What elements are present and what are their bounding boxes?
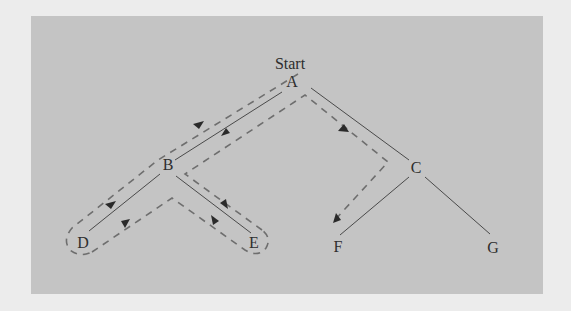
node-f: F bbox=[334, 239, 343, 255]
node-d: D bbox=[77, 235, 89, 251]
node-g: G bbox=[487, 240, 499, 256]
arrow-b-to-e bbox=[211, 215, 219, 225]
arrow-a-to-c bbox=[338, 124, 349, 132]
arrow-b-to-d bbox=[105, 201, 116, 209]
edge-c-g bbox=[425, 177, 490, 234]
start-label: Start bbox=[275, 56, 305, 72]
tree-diagram bbox=[0, 0, 571, 311]
edge-c-f bbox=[340, 177, 409, 235]
node-c: C bbox=[411, 160, 422, 176]
node-a: A bbox=[286, 74, 298, 90]
arrow-e-to-b bbox=[220, 199, 228, 209]
arrow-b-to-a bbox=[221, 128, 230, 136]
traversal-path bbox=[66, 74, 388, 255]
traversal-arrows bbox=[105, 121, 349, 228]
arrow-a-to-b bbox=[193, 121, 204, 129]
edge-a-b bbox=[175, 92, 282, 160]
edge-a-c bbox=[311, 88, 409, 160]
node-e: E bbox=[249, 235, 259, 251]
node-b: B bbox=[163, 157, 174, 173]
